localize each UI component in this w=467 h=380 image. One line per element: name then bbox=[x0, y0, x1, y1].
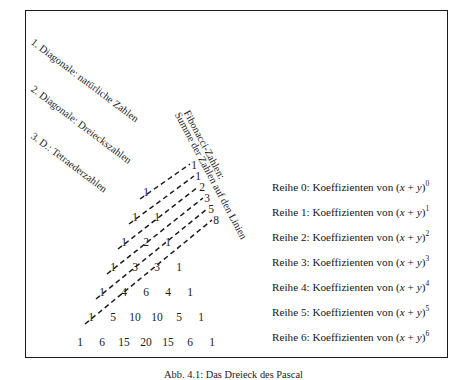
pascal-cell-r2-c0: 1 bbox=[113, 237, 135, 249]
row-label-5: Reihe 5: Koeffizienten von (x + y)5 bbox=[272, 307, 429, 318]
row-label-expression-4: (x + y)4 bbox=[396, 281, 429, 293]
pascal-cell-r3-c0: 1 bbox=[102, 262, 124, 274]
pascal-cell-r4-c0: 1 bbox=[91, 287, 113, 299]
pascal-cell-r2-c1: 2 bbox=[135, 237, 157, 249]
pascal-cell-r3-c2: 3 bbox=[146, 262, 168, 274]
row-label-text-3: Reihe 3: Koeffizienten von bbox=[272, 256, 396, 268]
row-label-0: Reihe 0: Koeffizienten von (x + y)0 bbox=[272, 182, 429, 193]
pascal-cell-r5-c2: 10 bbox=[124, 312, 146, 324]
row-label-6: Reihe 6: Koeffizienten von (x + y)6 bbox=[272, 332, 429, 343]
pascal-cell-r5-c3: 10 bbox=[146, 312, 168, 324]
pascal-cell-r6-c5: 6 bbox=[179, 337, 201, 349]
pascal-cell-r5-c5: 1 bbox=[190, 312, 212, 324]
row-label-text-6: Reihe 6: Koeffizienten von bbox=[272, 331, 396, 343]
row-label-expression-2: (x + y)2 bbox=[396, 231, 429, 243]
pascal-cell-r1-c1: 1 bbox=[146, 212, 168, 224]
pascal-cell-r6-c4: 15 bbox=[157, 337, 179, 349]
row-label-expression-3: (x + y)3 bbox=[396, 256, 429, 268]
pascal-cell-r3-c3: 1 bbox=[168, 262, 190, 274]
pascal-triangle-figure: 1. Diagonale: natürliche Zahlen 2. Diago… bbox=[0, 0, 467, 380]
pascal-cell-r5-c4: 5 bbox=[168, 312, 190, 324]
row-label-exponent-4: 4 bbox=[425, 279, 429, 288]
row-label-exponent-3: 3 bbox=[425, 254, 429, 263]
row-label-text-2: Reihe 2: Koeffizienten von bbox=[272, 231, 396, 243]
row-label-text-1: Reihe 1: Koeffizienten von bbox=[272, 206, 396, 218]
pascal-cell-r6-c1: 6 bbox=[91, 337, 113, 349]
pascal-cell-r4-c4: 1 bbox=[179, 287, 201, 299]
row-label-exponent-6: 6 bbox=[425, 329, 429, 338]
fibonacci-number-5: 8 bbox=[207, 215, 225, 227]
pascal-cell-r0-c0: 1 bbox=[135, 187, 157, 199]
row-label-text-5: Reihe 5: Koeffizienten von bbox=[272, 306, 396, 318]
row-label-exponent-1: 1 bbox=[425, 204, 429, 213]
row-label-expression-1: (x + y)1 bbox=[396, 206, 429, 218]
pascal-cell-r2-c2: 1 bbox=[157, 237, 179, 249]
row-label-1: Reihe 1: Koeffizienten von (x + y)1 bbox=[272, 207, 429, 218]
pascal-cell-r6-c6: 1 bbox=[201, 337, 223, 349]
row-label-text-4: Reihe 4: Koeffizienten von bbox=[272, 281, 396, 293]
pascal-cell-r4-c1: 4 bbox=[113, 287, 135, 299]
figure-caption: Abb. 4.1: Das Dreieck des Pascal bbox=[0, 369, 467, 380]
pascal-cell-r6-c2: 15 bbox=[113, 337, 135, 349]
pascal-cell-r4-c3: 4 bbox=[157, 287, 179, 299]
pascal-cell-r5-c1: 5 bbox=[102, 312, 124, 324]
row-label-exponent-2: 2 bbox=[425, 229, 429, 238]
row-label-3: Reihe 3: Koeffizienten von (x + y)3 bbox=[272, 257, 429, 268]
row-label-exponent-0: 0 bbox=[425, 179, 429, 188]
row-label-expression-5: (x + y)5 bbox=[396, 306, 429, 318]
row-label-expression-0: (x + y)0 bbox=[396, 181, 429, 193]
pascal-cell-r4-c2: 6 bbox=[135, 287, 157, 299]
row-label-exponent-5: 5 bbox=[425, 304, 429, 313]
row-label-expression-6: (x + y)6 bbox=[396, 331, 429, 343]
pascal-cell-r3-c1: 3 bbox=[124, 262, 146, 274]
row-label-2: Reihe 2: Koeffizienten von (x + y)2 bbox=[272, 232, 429, 243]
row-label-4: Reihe 4: Koeffizienten von (x + y)4 bbox=[272, 282, 429, 293]
row-label-text-0: Reihe 0: Koeffizienten von bbox=[272, 181, 396, 193]
pascal-cell-r6-c0: 1 bbox=[69, 337, 91, 349]
pascal-cell-r5-c0: 1 bbox=[80, 312, 102, 324]
pascal-cell-r6-c3: 20 bbox=[135, 337, 157, 349]
pascal-cell-r1-c0: 1 bbox=[124, 212, 146, 224]
